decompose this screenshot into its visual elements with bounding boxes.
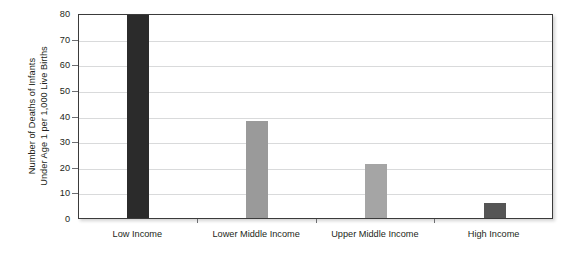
bar-chart-figure: Number of Deaths of Infants Under Age 1 … [0, 0, 573, 258]
y-axis-tick-label: 50 [46, 86, 70, 96]
x-axis-tick-marks [78, 219, 553, 224]
plot-area [78, 14, 553, 219]
x-axis-tick-label: High Income [468, 228, 520, 240]
bar [246, 121, 268, 218]
y-axis-tick-mark [72, 193, 78, 194]
x-axis-tick-label: Upper Middle Income [331, 228, 418, 240]
y-axis-tick-mark [72, 40, 78, 41]
y-axis-tick-mark [72, 65, 78, 66]
y-axis-tick-mark [72, 91, 78, 92]
y-axis-tick-label: 20 [46, 163, 70, 173]
y-axis-tick-label: 30 [46, 137, 70, 147]
x-axis-tick-mark [434, 219, 435, 223]
y-axis-tick-label: 10 [46, 188, 70, 198]
y-axis-tick-labels: 01020304050607080 [46, 14, 70, 220]
y-axis-tick-mark [72, 168, 78, 169]
bar [127, 15, 149, 218]
y-axis-tick-label: 80 [46, 9, 70, 19]
bar [365, 164, 387, 218]
y-axis-tick-label: 70 [46, 35, 70, 45]
y-axis-tick-label: 40 [46, 112, 70, 122]
x-axis-tick-mark [316, 219, 317, 223]
y-axis-title-line-1: Number of Deaths of Infants [27, 58, 39, 174]
bar [484, 203, 506, 218]
x-axis-tick-label: Low Income [113, 228, 163, 240]
bars-layer [79, 15, 552, 218]
y-axis-tick-mark [72, 142, 78, 143]
y-axis-tick-label: 60 [46, 60, 70, 70]
x-axis-tick-label: Lower Middle Income [212, 228, 299, 240]
x-axis-tick-labels: Low IncomeLower Middle IncomeUpper Middl… [78, 228, 553, 242]
y-axis-tick-label: 0 [46, 214, 70, 224]
y-axis-tick-mark [72, 117, 78, 118]
x-axis-tick-mark [197, 219, 198, 223]
